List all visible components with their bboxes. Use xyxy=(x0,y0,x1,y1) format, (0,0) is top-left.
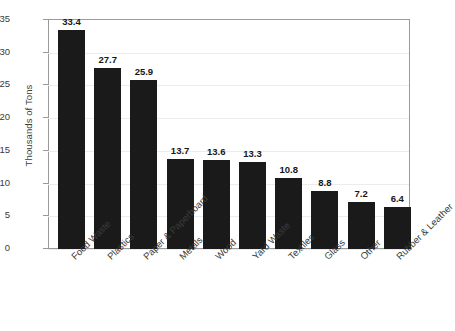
bar-value-label: 25.9 xyxy=(122,67,166,77)
bar-value-label: 27.7 xyxy=(86,55,130,65)
bar-value-label: 6.4 xyxy=(375,194,419,204)
y-axis-tick-label: 25 xyxy=(0,79,10,89)
bar xyxy=(58,30,85,249)
y-axis-tick-label: 0 xyxy=(0,243,10,253)
y-axis-tick-label: 10 xyxy=(0,178,10,188)
y-axis-tick-label: 5 xyxy=(0,210,10,220)
bar xyxy=(239,162,266,249)
y-axis-title: Thousands of Tons xyxy=(23,46,34,206)
y-axis-tick-label: 30 xyxy=(0,47,10,57)
bar xyxy=(203,160,230,249)
bar-value-label: 10.8 xyxy=(267,165,311,175)
y-axis-tick-label: 20 xyxy=(0,112,10,122)
bar xyxy=(130,80,157,249)
bar-value-label: 13.3 xyxy=(231,149,275,159)
bar-value-label: 33.4 xyxy=(50,17,94,27)
bar-value-label: 8.8 xyxy=(303,178,347,188)
y-axis-tick-label: 15 xyxy=(0,145,10,155)
y-axis-tick-label: 35 xyxy=(0,14,10,24)
